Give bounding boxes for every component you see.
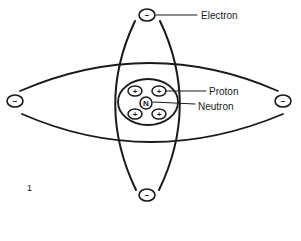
proton-3-sign: + [133,110,138,119]
proton-1-sign: + [133,87,138,96]
proton-label: Proton [209,86,238,97]
proton-2-sign: + [157,87,162,96]
figure-number: 1 [27,183,32,193]
electron-label: Electron [201,10,238,21]
electron-bottom-sign: − [145,191,150,200]
electron-top-sign: − [145,11,150,20]
neutron-label: Neutron [198,101,234,112]
proton-4-sign: + [157,110,162,119]
electron-left-sign: − [13,97,18,106]
electron-right-sign: − [281,97,286,106]
atom-diagram: − − − − + + + + N Electron Proton Neutro… [0,0,301,241]
neutron-sign: N [143,99,149,108]
